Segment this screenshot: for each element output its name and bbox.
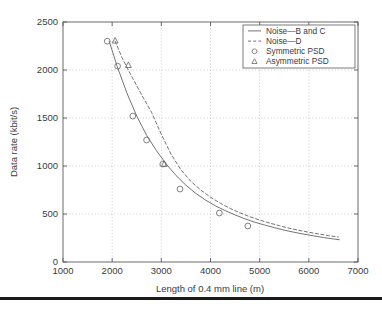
legend-label-0: Noise—B and C	[266, 26, 326, 36]
y-axis-label: Data rate (kbit/s)	[8, 107, 19, 177]
bottom-divider-rule	[0, 297, 382, 300]
x-tick-label: 2000	[102, 265, 123, 276]
x-tick-label: 5000	[249, 265, 270, 276]
y-tick-label: 500	[42, 208, 58, 219]
x-tick-label: 3000	[151, 265, 172, 276]
x-tick-label: 6000	[298, 265, 319, 276]
y-tick-label: 2000	[37, 64, 58, 75]
legend-label-2: Symmetric PSD	[266, 46, 325, 56]
x-tick-label: 4000	[200, 265, 221, 276]
y-tick-label: 2500	[37, 16, 58, 27]
y-tick-label: 1000	[37, 160, 58, 171]
chart-legend: Noise—B and CNoise—DSymmetric PSDAsymmet…	[243, 25, 355, 68]
x-axis-label: Length of 0.4 mm line (m)	[156, 283, 264, 294]
y-tick-label: 0	[53, 256, 58, 267]
figure-container: 1000200030004000500060007000 05001000150…	[0, 0, 382, 310]
y-tick-label: 1500	[37, 112, 58, 123]
legend-label-3: Asymmetric PSD	[266, 56, 329, 66]
data-rate-vs-line-length-chart: 1000200030004000500060007000 05001000150…	[0, 0, 382, 310]
legend-label-1: Noise—D	[266, 36, 302, 46]
x-tick-label: 7000	[347, 265, 368, 276]
